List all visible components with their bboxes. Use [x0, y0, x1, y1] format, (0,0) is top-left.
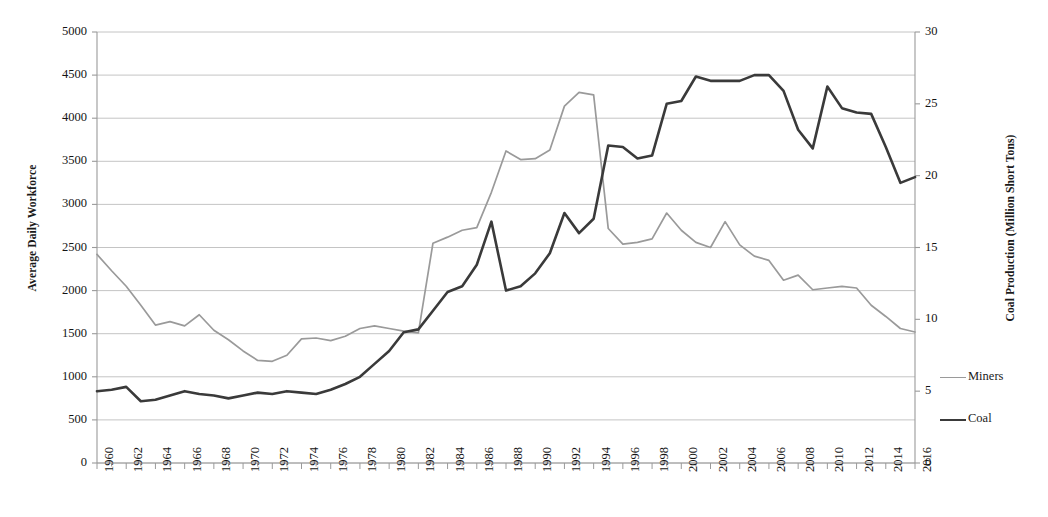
x-axis-tick-label: 1984 [453, 447, 468, 472]
x-axis-tick-label: 1972 [277, 447, 292, 472]
x-axis-tick-label: 1992 [569, 447, 584, 472]
y-axis-right-tick-label: 5 [925, 383, 971, 398]
x-axis-tick-label: 1974 [307, 447, 322, 472]
x-axis-tick-label: 1966 [190, 447, 205, 472]
legend-label: Coal [968, 411, 992, 426]
y-axis-left-tick-label: 0 [41, 455, 87, 470]
y-axis-left-tick-label: 4500 [41, 67, 87, 82]
x-axis-tick-label: 1996 [628, 447, 643, 472]
series-line-coal [97, 75, 915, 401]
y-axis-left-tick-label: 5000 [41, 24, 87, 39]
x-axis-tick-label: 1964 [160, 447, 175, 472]
y-axis-left-title: Average Daily Workforce [26, 128, 38, 328]
y-axis-right-tick-label: 20 [925, 168, 971, 183]
x-axis-tick-label: 1994 [599, 447, 614, 472]
y-axis-left-tick-label: 2500 [41, 240, 87, 255]
x-axis-tick-label: 1990 [540, 447, 555, 472]
y-axis-right-tick-label: 15 [925, 240, 971, 255]
x-axis-tick-label: 1970 [248, 447, 263, 472]
x-axis-tick-label: 1986 [482, 447, 497, 472]
x-axis-tick-label: 2010 [832, 447, 847, 472]
x-axis-tick-label: 1960 [102, 447, 117, 472]
x-axis-tick-label: 1988 [511, 447, 526, 472]
x-axis-tick-label: 2002 [716, 447, 731, 472]
y-axis-right-tick-label: 10 [925, 311, 971, 326]
x-axis-tick-label: 2008 [803, 447, 818, 472]
x-axis-tick-label: 1998 [657, 447, 672, 472]
x-axis-tick-label: 1982 [423, 447, 438, 472]
legend-swatch-miners-icon [940, 377, 966, 378]
x-axis-tick-label: 2012 [862, 447, 877, 472]
legend-label: Miners [968, 369, 1003, 384]
dual-axis-line-chart: Average Daily Workforce Coal Production … [0, 0, 1048, 517]
x-axis-tick-label: 2014 [891, 447, 906, 472]
x-axis-tick-label: 1976 [336, 447, 351, 472]
x-axis-tick-label: 1980 [394, 447, 409, 472]
y-axis-left-tick-label: 500 [41, 412, 87, 427]
y-axis-left-tick-label: 3000 [41, 196, 87, 211]
y-axis-right-tick-label: 30 [925, 24, 971, 39]
y-axis-left-tick-label: 1500 [41, 326, 87, 341]
y-axis-right-tick-label: 25 [925, 96, 971, 111]
x-axis-tick-label: 2006 [774, 447, 789, 472]
y-axis-right-title: Coal Production (Million Short Tons) [1004, 98, 1016, 358]
y-axis-left-tick-label: 1000 [41, 369, 87, 384]
x-axis-tick-label: 1968 [219, 447, 234, 472]
x-axis-tick-label: 1962 [131, 447, 146, 472]
x-axis-tick-label: 2016 [920, 447, 935, 472]
x-axis-tick-label: 2004 [745, 447, 760, 472]
y-axis-left-tick-label: 4000 [41, 110, 87, 125]
chart-plot-area [0, 0, 1048, 517]
legend-swatch-coal-icon [940, 419, 966, 421]
y-axis-left-tick-label: 3500 [41, 153, 87, 168]
y-axis-left-tick-label: 2000 [41, 283, 87, 298]
x-axis-tick-label: 1978 [365, 447, 380, 472]
series-line-miners [97, 92, 915, 361]
x-axis-tick-label: 2000 [686, 447, 701, 472]
